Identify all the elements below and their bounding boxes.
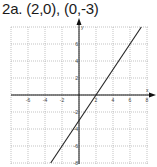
x-tick-label: -4 bbox=[43, 97, 48, 103]
y-tick-label: -8 bbox=[74, 160, 79, 166]
y-tick-label: 2 bbox=[75, 75, 78, 81]
y-tick-label: -2 bbox=[74, 109, 79, 115]
x-axis-label: x bbox=[146, 87, 149, 93]
x-tick-label: 2 bbox=[95, 97, 98, 103]
x-tick-label: 4 bbox=[112, 97, 115, 103]
y-tick-label: -6 bbox=[74, 143, 79, 149]
y-tick-label: 6 bbox=[75, 41, 78, 47]
x-tick-label: -2 bbox=[60, 97, 65, 103]
x-tick-label: 6 bbox=[129, 97, 132, 103]
y-tick-label: 4 bbox=[75, 58, 78, 64]
x-tick-label: 8 bbox=[146, 97, 149, 103]
x-tick-label: -6 bbox=[26, 97, 31, 103]
coordinate-plane: xy-6-4-22468642-2-4-6-8 bbox=[0, 0, 157, 167]
x-axis-arrow-icon bbox=[149, 93, 156, 98]
